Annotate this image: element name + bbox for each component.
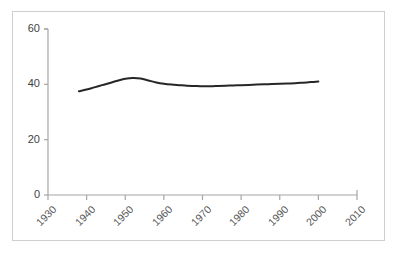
data-series-line bbox=[79, 78, 318, 91]
chart-frame: 0204060 19301940195019601970198019902000… bbox=[12, 11, 385, 241]
y-tick-label: 20 bbox=[14, 134, 40, 145]
y-tick-label: 60 bbox=[14, 23, 40, 34]
y-tick-label: 40 bbox=[14, 78, 40, 89]
plot-area bbox=[13, 12, 384, 240]
chart-container: 0204060 19301940195019601970198019902000… bbox=[0, 0, 398, 253]
y-tick-label: 0 bbox=[14, 189, 40, 200]
